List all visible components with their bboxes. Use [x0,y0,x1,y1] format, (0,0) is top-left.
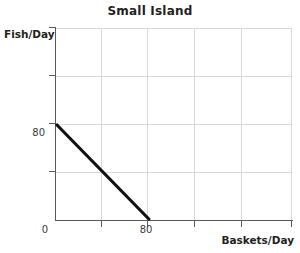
chart-container: Small Island Fish/Day Baskets/Day 80 0 8… [0,0,300,253]
data-layer [0,0,300,253]
ppf-line [56,124,150,220]
